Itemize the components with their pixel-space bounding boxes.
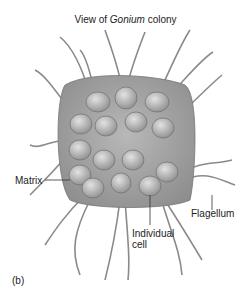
flagellum-label: Flagellum [191, 208, 234, 219]
panel-label: (b) [12, 275, 24, 286]
gonium-colony-illustration [0, 0, 251, 299]
individual-cell-label: Individualcell [132, 228, 174, 250]
matrix-label: Matrix [15, 175, 42, 186]
